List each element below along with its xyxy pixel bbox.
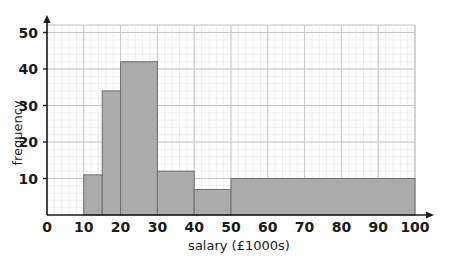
x-tick-label: 70 xyxy=(295,219,315,235)
x-tick-label: 10 xyxy=(74,219,94,235)
histogram-bar xyxy=(102,91,120,215)
y-tick-label: 40 xyxy=(19,61,39,77)
x-tick-label: 0 xyxy=(42,219,52,235)
x-tick-label: 90 xyxy=(368,219,388,235)
x-axis-title: salary (£1000s) xyxy=(188,238,290,253)
histogram-bar xyxy=(231,179,415,216)
x-tick-label: 30 xyxy=(148,219,168,235)
histogram-svg: 0102030405060708090100 1020304050 salary… xyxy=(0,0,450,263)
x-tick-label: 80 xyxy=(332,219,352,235)
histogram-bar xyxy=(121,62,158,215)
x-tick-label: 40 xyxy=(184,219,204,235)
y-axis-title: frequency xyxy=(10,100,25,166)
histogram-bar xyxy=(194,189,231,215)
x-tick-label: 100 xyxy=(400,219,429,235)
y-tick-label: 50 xyxy=(19,25,39,41)
histogram-bar xyxy=(157,171,194,215)
x-tick-label: 50 xyxy=(221,219,241,235)
histogram-chart: 0102030405060708090100 1020304050 salary… xyxy=(0,0,450,263)
x-tick-label: 60 xyxy=(258,219,278,235)
x-tick-label: 20 xyxy=(111,219,131,235)
y-tick-label: 10 xyxy=(19,171,39,187)
histogram-bar xyxy=(84,175,102,215)
